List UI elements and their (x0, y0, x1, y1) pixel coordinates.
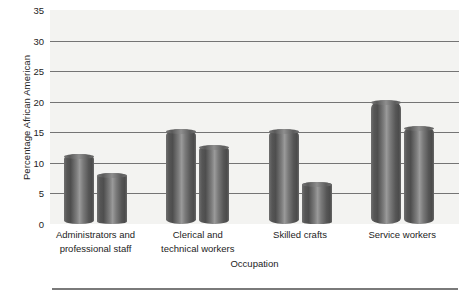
x-axis-category-label-line: Clerical and (147, 228, 249, 242)
x-axis-category-label-line: Service workers (351, 228, 453, 242)
bar (404, 126, 434, 224)
x-axis-category-label-line: professional staff (44, 242, 146, 256)
x-axis-title: Occupation (50, 258, 459, 269)
bar (64, 154, 94, 224)
y-axis-tick-label: 35 (18, 5, 44, 16)
bar (302, 182, 332, 224)
x-axis-category-label: Service workers (351, 228, 453, 242)
y-axis-tick-labels: 05101520253035 (18, 0, 44, 232)
bar-chart: Percentage African American 051015202530… (0, 0, 471, 302)
y-axis-tick-label: 20 (18, 96, 44, 107)
x-axis-category-label-line: Skilled crafts (249, 228, 351, 242)
y-axis-tick-label: 30 (18, 35, 44, 46)
gridline (50, 41, 459, 42)
y-axis-tick-label: 5 (18, 188, 44, 199)
y-axis-tick-label: 15 (18, 127, 44, 138)
y-axis-tick-label: 25 (18, 66, 44, 77)
x-axis-category-label: Administrators andprofessional staff (44, 228, 146, 255)
bar (371, 100, 401, 224)
x-axis-category-label: Skilled crafts (249, 228, 351, 242)
bar (166, 129, 196, 224)
x-axis-category-label-line: Administrators and (44, 228, 146, 242)
y-axis-tick-label: 0 (18, 219, 44, 230)
x-axis-category-label: Clerical andtechnical workers (147, 228, 249, 255)
bar (199, 145, 229, 224)
y-axis-tick-label: 10 (18, 157, 44, 168)
bottom-rule-divider (52, 288, 458, 290)
plot-area (50, 10, 459, 224)
bar (269, 129, 299, 224)
bar (97, 173, 127, 224)
gridline (50, 71, 459, 72)
x-axis-category-label-line: technical workers (147, 242, 249, 256)
